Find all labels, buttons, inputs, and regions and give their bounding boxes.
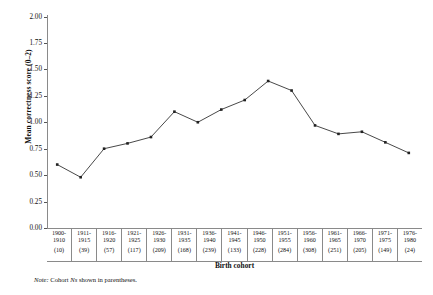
data-point-marker — [243, 99, 246, 102]
note-body-a: Cohort — [49, 276, 71, 283]
data-point-marker — [314, 124, 317, 127]
x-axis-cohort-cell: 1946-1950(228) — [248, 229, 273, 261]
x-axis-cohort-cell: 1916-1920(57) — [97, 229, 122, 261]
cohort-n: (168) — [178, 247, 191, 254]
cohort-n: (209) — [153, 247, 166, 254]
cohort-year-line: 1966- — [353, 230, 367, 237]
x-axis-cohort-cell: 1971-1975(149) — [373, 229, 398, 261]
cohort-n: (205) — [353, 247, 366, 254]
cohort-n: (10) — [54, 247, 64, 254]
cohort-n: (24) — [405, 247, 415, 254]
data-point-marker — [290, 89, 293, 92]
cohort-year-line: 1910 — [53, 237, 65, 244]
cohort-year-line: 1930 — [153, 237, 165, 244]
cohort-year-line: 1965 — [329, 237, 341, 244]
cohort-year-line: 1911- — [77, 230, 91, 237]
cohort-year-line: 1925 — [128, 237, 140, 244]
cohort-year-line: 1916- — [102, 230, 116, 237]
cohort-n: (308) — [303, 247, 316, 254]
x-axis-cohort-cell: 1951-1955(284) — [273, 229, 298, 261]
cohort-year-line: 1935 — [178, 237, 190, 244]
cohort-year-line: 1945 — [228, 237, 240, 244]
cohort-year-line: 1946- — [252, 230, 266, 237]
cohort-year-line: 1961- — [328, 230, 342, 237]
cohort-year-line: 1936- — [202, 230, 216, 237]
cohort-year-line: 1950 — [253, 237, 265, 244]
series-line — [57, 81, 409, 177]
cohort-n: (239) — [203, 247, 216, 254]
series-markers — [56, 80, 410, 179]
data-point-marker — [126, 142, 129, 145]
data-point-marker — [103, 147, 106, 150]
x-axis-title: Birth cohort — [47, 261, 422, 270]
cohort-n: (228) — [253, 247, 266, 254]
cohort-year-line: 1960 — [304, 237, 316, 244]
x-axis-cohort-cell: 1911-1915(39) — [72, 229, 97, 261]
cohort-year-line: 1975 — [379, 237, 391, 244]
cohort-n: (117) — [128, 247, 141, 254]
cohort-year-line: 1951- — [277, 230, 291, 237]
x-axis-cohort-cell: 1966-1970(205) — [348, 229, 373, 261]
data-point-marker — [267, 80, 270, 83]
cohort-year-line: 1900- — [52, 230, 66, 237]
data-point-marker — [407, 152, 410, 155]
cohort-year-line: 1920 — [103, 237, 115, 244]
x-axis-cohort-cell: 1931-1935(168) — [172, 229, 197, 261]
x-axis-cohort-cell: 1961-1965(251) — [323, 229, 348, 261]
x-axis-cohort-cell: 1976-1980(24) — [398, 229, 422, 261]
x-axis-cohort-cell: 1936-1940(239) — [197, 229, 222, 261]
figure-note: Note: Cohort Ns shown in parentheses. — [34, 276, 137, 283]
x-axis-cohort-cell: 1921-1925(117) — [122, 229, 147, 261]
cohort-year-line: 1971- — [378, 230, 392, 237]
cohort-year-line: 1926- — [152, 230, 166, 237]
note-prefix: Note: — [34, 276, 49, 283]
cohort-year-line: 1970 — [354, 237, 366, 244]
cohort-n: (149) — [378, 247, 391, 254]
x-axis-cohort-cell: 1900-1910(10) — [47, 229, 72, 261]
cohort-year-line: 1976- — [403, 230, 417, 237]
data-point-marker — [197, 121, 200, 124]
cohort-year-line: 1955 — [279, 237, 291, 244]
cohort-year-line: 1921- — [127, 230, 141, 237]
chart-figure: Mean correctness score (0–2) 2.001.751.5… — [0, 0, 433, 295]
cohort-n: (251) — [328, 247, 341, 254]
data-point-marker — [220, 108, 223, 111]
cohort-year-line: 1956- — [303, 230, 317, 237]
cohort-year-line: 1931- — [177, 230, 191, 237]
data-point-marker — [56, 163, 59, 166]
cohort-year-line: 1915 — [78, 237, 90, 244]
cohort-n: (39) — [79, 247, 89, 254]
cohort-n: (57) — [104, 247, 114, 254]
data-point-marker — [173, 110, 176, 113]
cohort-year-line: 1941- — [227, 230, 241, 237]
x-axis-cohort-cell: 1941-1945(133) — [222, 229, 247, 261]
cohort-n: (133) — [228, 247, 241, 254]
x-axis-cohort-table: 1900-1910(10)1911-1915(39)1916-1920(57)1… — [47, 229, 422, 262]
x-axis-cohort-cell: 1926-1930(209) — [147, 229, 172, 261]
data-point-marker — [337, 133, 340, 136]
data-point-marker — [150, 136, 153, 139]
data-point-marker — [384, 141, 387, 144]
x-axis-cohort-cell: 1956-1960(308) — [298, 229, 323, 261]
note-body-b: shown in parentheses. — [77, 276, 137, 283]
cohort-year-line: 1940 — [203, 237, 215, 244]
data-point-marker — [361, 130, 364, 133]
cohort-year-line: 1980 — [404, 237, 416, 244]
cohort-n: (284) — [278, 247, 291, 254]
data-point-marker — [79, 176, 82, 179]
